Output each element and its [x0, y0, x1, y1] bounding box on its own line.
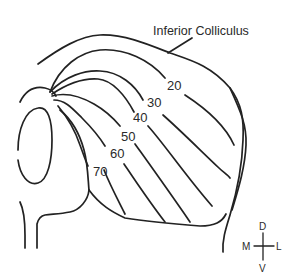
compass-medial: M [242, 241, 250, 252]
adjacent-structures [18, 88, 56, 184]
compass-lateral: L [276, 241, 282, 252]
compass-ventral: V [259, 263, 266, 274]
contour-label-70: 70 [93, 164, 107, 179]
isofrequency-contours [50, 50, 234, 222]
inferior-colliculus-diagram: Inferior Colliculus 20 30 40 50 60 70 D … [0, 0, 302, 277]
contour-label-30: 30 [147, 95, 161, 110]
compass-dorsal: D [259, 221, 266, 232]
title-leader-line [168, 38, 192, 53]
ventral-boundary [20, 190, 226, 248]
contour-label-50: 50 [121, 129, 135, 144]
title-label: Inferior Colliculus [153, 24, 249, 38]
orientation-compass: D V M L [242, 221, 282, 274]
contour-label-60: 60 [110, 146, 124, 161]
contour-label-20: 20 [167, 78, 181, 93]
contour-label-40: 40 [133, 110, 147, 125]
colliculus-outline [38, 35, 246, 252]
